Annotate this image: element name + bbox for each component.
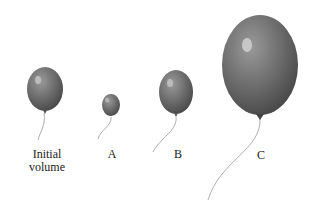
- balloon-a: [98, 94, 120, 139]
- balloon-b: [153, 70, 193, 152]
- label-initial-line2: volume: [22, 161, 72, 174]
- label-a: A: [104, 148, 120, 161]
- balloons-figure: [0, 0, 314, 213]
- label-c: C: [253, 149, 269, 162]
- label-initial: Initial volume: [22, 148, 72, 174]
- label-b: B: [170, 148, 186, 161]
- balloon-c: [208, 15, 298, 200]
- balloon-initial: [27, 67, 63, 140]
